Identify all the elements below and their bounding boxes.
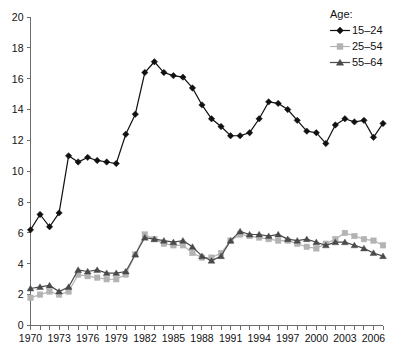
legend-marker: [337, 44, 343, 50]
data-point: [170, 72, 176, 78]
data-point: [84, 154, 90, 160]
y-tick-label: 2: [18, 288, 24, 300]
y-tick-label: 8: [18, 196, 24, 208]
data-point: [304, 244, 310, 250]
series-25-54: [28, 230, 386, 300]
data-point: [314, 246, 320, 252]
y-tick-label: 18: [12, 42, 24, 54]
x-tick-label: 1994: [247, 332, 271, 344]
data-point: [189, 244, 196, 250]
series-line: [31, 233, 384, 298]
series-group: [27, 59, 386, 301]
data-point: [380, 242, 386, 248]
x-tick-label: 1973: [47, 332, 71, 344]
data-point: [65, 153, 71, 159]
x-tick-label: 1976: [76, 332, 100, 344]
data-point: [361, 117, 367, 123]
chart-container: 02468101214161820 1970197319761979198219…: [0, 0, 405, 348]
series-15-24: [27, 59, 386, 234]
y-tick-label: 20: [12, 11, 24, 23]
data-point: [275, 100, 281, 106]
series-line: [31, 62, 384, 230]
data-point: [123, 131, 129, 137]
series-line: [31, 231, 384, 291]
data-point: [94, 275, 100, 281]
legend-marker: [337, 27, 344, 34]
data-point: [28, 295, 34, 301]
x-tick-label: 1979: [105, 332, 129, 344]
legend-item-55-64[interactable]: 55–64: [330, 56, 383, 68]
x-axis-ticks: 1970197319761979198219851988199119941997…: [19, 326, 385, 344]
data-point: [370, 250, 377, 256]
x-tick-label: 1991: [219, 332, 243, 344]
data-point: [275, 238, 281, 244]
data-point: [342, 116, 348, 122]
chart-legend: Age:15–2425–5455–64: [330, 8, 383, 68]
data-point: [275, 231, 282, 237]
legend-label: 25–54: [352, 40, 383, 52]
y-tick-label: 4: [18, 258, 24, 270]
legend-label: 15–24: [352, 24, 383, 36]
x-tick-label: 1997: [276, 332, 300, 344]
data-point: [113, 276, 119, 282]
x-tick-label: 1985: [162, 332, 186, 344]
y-tick-label: 12: [12, 134, 24, 146]
y-tick-label: 16: [12, 73, 24, 85]
data-point: [190, 250, 196, 256]
legend-label: 55–64: [352, 56, 383, 68]
data-point: [361, 236, 367, 242]
data-point: [179, 238, 186, 244]
y-tick-label: 10: [12, 165, 24, 177]
data-point: [104, 276, 110, 282]
y-tick-label: 6: [18, 227, 24, 239]
x-tick-label: 1988: [190, 332, 214, 344]
data-point: [56, 288, 63, 294]
y-axis-ticks: 02468101214161820: [12, 11, 31, 332]
x-tick-label: 1982: [133, 332, 157, 344]
data-point: [351, 119, 357, 125]
line-chart: 02468101214161820 1970197319761979198219…: [0, 0, 405, 348]
x-tick-label: 2000: [305, 332, 329, 344]
data-point: [237, 228, 244, 234]
data-point: [265, 99, 271, 105]
data-point: [94, 267, 101, 273]
data-point: [47, 289, 53, 295]
y-tick-label: 0: [18, 319, 24, 331]
data-point: [342, 230, 348, 236]
data-point: [27, 227, 33, 233]
data-point: [303, 236, 310, 242]
legend-item-25-54[interactable]: 25–54: [330, 40, 383, 52]
data-point: [113, 160, 119, 166]
x-tick-label: 1970: [19, 332, 43, 344]
data-point: [332, 122, 338, 128]
data-point: [237, 133, 243, 139]
data-point: [371, 238, 377, 244]
data-point: [46, 282, 53, 288]
data-point: [352, 233, 358, 239]
data-point: [75, 267, 82, 273]
x-tick-label: 2006: [362, 332, 386, 344]
data-point: [94, 157, 100, 163]
data-point: [104, 159, 110, 165]
legend-title: Age:: [330, 8, 353, 20]
data-point: [132, 111, 138, 117]
x-tick-label: 2003: [333, 332, 357, 344]
y-tick-label: 14: [12, 103, 24, 115]
legend-item-15-24[interactable]: 15–24: [330, 24, 383, 36]
data-point: [37, 292, 43, 298]
data-point: [75, 159, 81, 165]
